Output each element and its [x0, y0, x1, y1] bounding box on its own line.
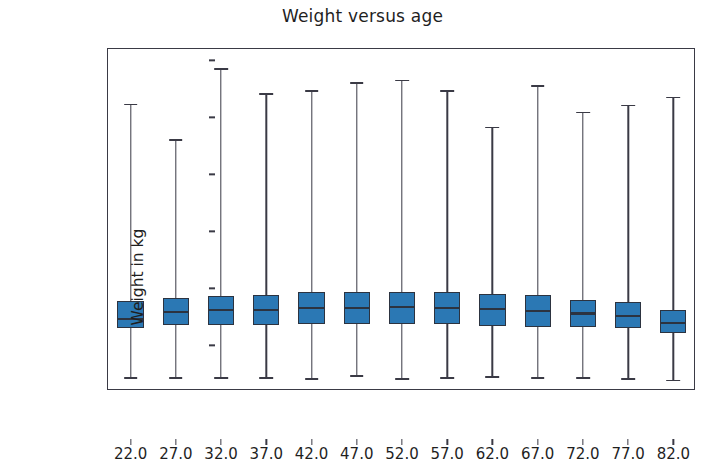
boxplot-median-line: [615, 315, 641, 317]
boxplot-lower-whisker: [627, 328, 628, 378]
boxplot-upper-whisker: [401, 80, 402, 292]
boxplot-upper-cap: [305, 90, 319, 92]
boxplot-box: [389, 292, 415, 324]
x-axis-tick-label: 22.0: [114, 445, 147, 463]
boxplot-lower-whisker: [492, 326, 493, 376]
x-axis-tick-label: 42.0: [295, 445, 328, 463]
y-axis-tick-mark: [209, 117, 215, 118]
boxplot-lower-whisker: [220, 325, 221, 377]
x-axis-tick-label: 67.0: [521, 445, 554, 463]
boxplot-upper-cap: [214, 68, 228, 70]
boxplot-lower-cap: [576, 377, 590, 379]
boxplot-lower-cap: [169, 377, 183, 379]
y-axis-tick-mark: [209, 231, 215, 232]
plot-area: Weight in kg Age in years 50100150200250…: [107, 48, 695, 390]
boxplot-upper-cap: [124, 104, 138, 106]
boxplot-lower-whisker: [401, 324, 402, 379]
boxplot-median-line: [298, 307, 324, 309]
boxplot-lower-cap: [350, 375, 364, 377]
boxplot-upper-whisker: [175, 139, 176, 297]
chart-title: Weight versus age: [0, 6, 725, 26]
boxplot-lower-whisker: [311, 324, 312, 379]
boxplot-lower-cap: [440, 377, 454, 379]
boxplot-upper-cap: [350, 82, 364, 84]
boxplot-lower-cap: [214, 377, 228, 379]
boxplot-median-line: [163, 311, 189, 313]
boxplot-upper-cap: [667, 97, 681, 99]
boxplot-upper-cap: [576, 112, 590, 114]
boxplot-lower-cap: [305, 378, 319, 380]
boxplot-median-line: [570, 312, 596, 314]
boxplot-lower-whisker: [582, 327, 583, 377]
boxplot-median-line: [208, 309, 234, 311]
y-axis-tick-mark: [209, 60, 215, 61]
boxplot-median-line: [525, 310, 551, 312]
boxplot-upper-whisker: [447, 90, 448, 292]
x-axis-tick-label: 57.0: [431, 445, 464, 463]
boxplot-median-line: [253, 309, 279, 311]
boxplot-lower-cap: [531, 377, 545, 379]
y-axis-tick-mark: [209, 345, 215, 346]
figure-canvas: Weight versus age Weight in kg Age in ye…: [0, 0, 725, 470]
x-axis-tick-label: 37.0: [250, 445, 283, 463]
y-axis-tick-mark: [209, 288, 215, 289]
boxplot-upper-cap: [259, 93, 273, 95]
boxplot-upper-whisker: [220, 68, 221, 296]
boxplot-median-line: [344, 307, 370, 309]
y-axis-tick-mark: [209, 174, 215, 175]
boxplot-upper-whisker: [492, 127, 493, 295]
boxplot-lower-cap: [395, 378, 409, 380]
x-axis-tick-label: 52.0: [385, 445, 418, 463]
boxplot-lower-whisker: [673, 333, 674, 380]
boxplot-upper-whisker: [582, 112, 583, 300]
boxplot-lower-cap: [486, 376, 500, 378]
boxplot-box: [479, 294, 505, 326]
boxplot-lower-whisker: [447, 324, 448, 378]
x-axis-tick-label: 27.0: [159, 445, 192, 463]
x-axis-tick-label: 62.0: [476, 445, 509, 463]
boxplot-upper-whisker: [627, 105, 628, 302]
boxplot-upper-cap: [531, 85, 545, 87]
x-axis-tick-label: 72.0: [566, 445, 599, 463]
boxplot-lower-whisker: [175, 325, 176, 377]
boxplot-upper-cap: [395, 80, 409, 82]
boxplot-upper-cap: [486, 127, 500, 129]
x-axis-tick-label: 77.0: [611, 445, 644, 463]
x-axis-tick-label: 82.0: [657, 445, 690, 463]
boxplot-lower-cap: [667, 380, 681, 382]
y-axis-label: Weight in kg: [129, 127, 147, 427]
boxplot-lower-cap: [259, 377, 273, 379]
boxplot-upper-cap: [621, 105, 635, 107]
boxplot-median-line: [660, 322, 686, 324]
boxplot-upper-whisker: [673, 97, 674, 310]
boxplot-lower-cap: [621, 378, 635, 380]
boxplot-upper-whisker: [356, 82, 357, 292]
boxplot-median-line: [479, 308, 505, 310]
boxplot-upper-cap: [169, 139, 183, 141]
plot-inner: [108, 49, 694, 389]
boxplot-median-line: [434, 307, 460, 309]
boxplot-lower-whisker: [537, 327, 538, 377]
x-axis-tick-label: 47.0: [340, 445, 373, 463]
boxplot-lower-whisker: [266, 325, 267, 377]
boxplot-median-line: [389, 306, 415, 308]
boxplot-upper-whisker: [537, 85, 538, 295]
boxplot-upper-cap: [440, 90, 454, 92]
x-axis-tick-label: 32.0: [204, 445, 237, 463]
boxplot-upper-whisker: [266, 93, 267, 295]
boxplot-upper-whisker: [311, 90, 312, 292]
boxplot-lower-whisker: [356, 324, 357, 375]
